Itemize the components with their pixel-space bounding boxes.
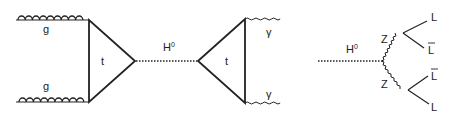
photon-line-top xyxy=(245,18,280,20)
label-top-loop-2: t xyxy=(225,55,228,67)
diagram-right-labels: H0 Z Z L L L L xyxy=(346,11,438,113)
label-antilepton-3: L xyxy=(431,69,438,82)
lepton-line-4 xyxy=(408,90,429,104)
gluon-line-bottom xyxy=(16,98,89,102)
label-antilepton-2: L xyxy=(428,43,435,56)
diagram-gg-h-gammagamma xyxy=(16,16,280,104)
feynman-diagrams: g g t H0 t γ γ H0 Z Z L L L L xyxy=(0,0,457,117)
lepton-line-3 xyxy=(408,76,428,90)
lepton-line-1 xyxy=(403,21,427,33)
label-higgs-right: H0 xyxy=(346,43,358,55)
label-lepton-1: L xyxy=(431,11,437,23)
svg-text:L: L xyxy=(428,44,434,56)
svg-text:L: L xyxy=(431,70,437,82)
lepton-line-2 xyxy=(403,33,424,48)
label-photon-top: γ xyxy=(266,26,272,38)
label-gluon-top: g xyxy=(43,23,49,35)
label-lepton-4: L xyxy=(431,101,437,113)
photon-line-bottom xyxy=(245,102,280,104)
label-z-top: Z xyxy=(381,33,388,45)
top-loop-triangle-1 xyxy=(89,20,135,102)
label-photon-bottom: γ xyxy=(266,88,272,100)
top-loop-triangle-2 xyxy=(198,19,245,103)
diagram-h-zz-4l xyxy=(318,21,429,104)
label-higgs-left: H0 xyxy=(163,41,175,53)
label-z-bottom: Z xyxy=(381,78,388,90)
gluon-line-top xyxy=(16,16,89,20)
label-top-loop-1: t xyxy=(101,55,104,67)
label-gluon-bottom: g xyxy=(43,80,49,92)
